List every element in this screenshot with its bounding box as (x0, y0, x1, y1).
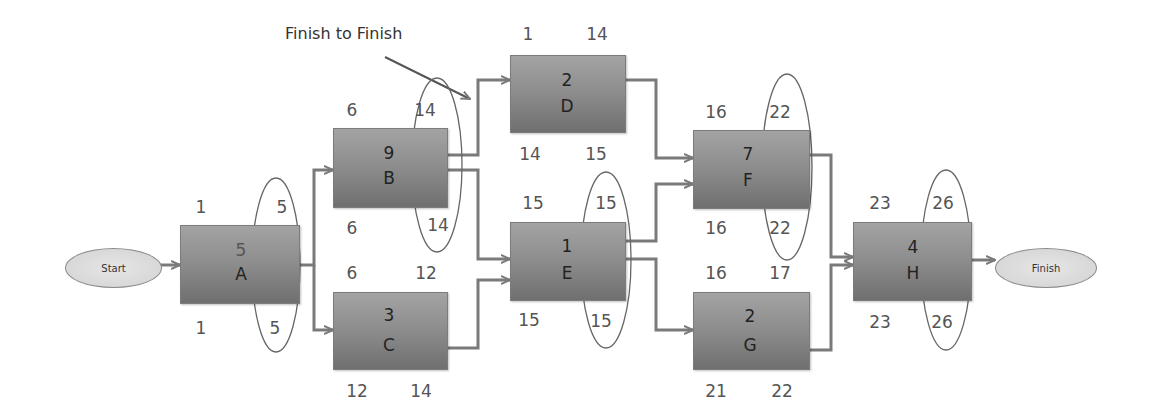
h-early-finish: 26 (923, 193, 963, 213)
g-late-start: 21 (696, 381, 736, 401)
b-late-start: 6 (332, 218, 372, 238)
b-name: B (369, 168, 409, 188)
activity-d (510, 55, 626, 133)
edge-c-e (446, 280, 510, 348)
a-late-finish: 5 (255, 318, 295, 338)
d-early-finish: 14 (577, 24, 617, 44)
c-late-start: 12 (337, 381, 377, 401)
network-diagram: Finish to Finish Start Finish 1 5 5 A 1 … (0, 0, 1149, 419)
c-late-finish: 14 (401, 381, 441, 401)
c-early-start: 6 (332, 263, 372, 283)
a-early-finish: 5 (262, 197, 302, 217)
d-late-finish: 15 (576, 144, 616, 164)
a-late-start: 1 (181, 318, 221, 338)
e-late-finish: 15 (581, 311, 621, 331)
g-early-finish: 17 (760, 263, 800, 283)
edge-f-h (808, 155, 853, 257)
f-name: F (728, 170, 768, 190)
edge-g-h (808, 265, 853, 350)
a-early-start: 1 (181, 197, 221, 217)
d-name: D (547, 96, 587, 116)
c-duration: 3 (369, 305, 409, 325)
b-duration: 9 (369, 143, 409, 163)
d-early-start: 1 (508, 24, 548, 44)
c-name: C (369, 335, 409, 355)
g-early-start: 16 (696, 263, 736, 283)
g-duration: 2 (730, 306, 770, 326)
e-early-start: 15 (513, 193, 553, 213)
a-duration-text: 5 (221, 240, 261, 260)
finish-to-finish-label: Finish to Finish (285, 24, 402, 43)
edge-e-f (624, 184, 693, 241)
g-late-finish: 22 (762, 381, 802, 401)
b-early-start: 6 (332, 100, 372, 120)
finish-node: Finish (995, 248, 1097, 288)
edge-a-c (314, 265, 333, 330)
b-late-finish: 14 (418, 215, 458, 235)
b-early-finish: 14 (405, 100, 445, 120)
f-duration: 7 (728, 144, 768, 164)
g-name: G (730, 335, 770, 355)
d-duration: 2 (547, 70, 587, 90)
edge-d-f (624, 80, 693, 158)
start-label: Start (101, 263, 125, 274)
f-late-finish: 22 (760, 218, 800, 238)
finish-to-finish-pointer (385, 57, 470, 99)
e-late-start: 15 (509, 310, 549, 330)
activity-c (333, 292, 448, 370)
activity-h (853, 222, 972, 301)
e-early-finish: 15 (586, 193, 626, 213)
d-late-start: 14 (510, 144, 550, 164)
h-name: H (893, 263, 933, 283)
f-early-finish: 22 (760, 102, 800, 122)
h-late-start: 23 (860, 312, 900, 332)
start-node: Start (65, 248, 162, 288)
finish-label: Finish (1032, 263, 1060, 274)
a-name: A (221, 264, 261, 284)
f-early-start: 16 (696, 102, 736, 122)
h-duration: 4 (893, 237, 933, 257)
activity-e (510, 222, 626, 301)
h-late-finish: 26 (922, 312, 962, 332)
e-duration: 1 (547, 236, 587, 256)
f-late-start: 16 (696, 218, 736, 238)
e-name: E (547, 263, 587, 283)
c-early-finish: 12 (406, 263, 446, 283)
h-early-start: 23 (860, 193, 900, 213)
edge-a-b (298, 170, 333, 265)
activity-g (693, 292, 810, 370)
edge-e-g (624, 259, 693, 330)
